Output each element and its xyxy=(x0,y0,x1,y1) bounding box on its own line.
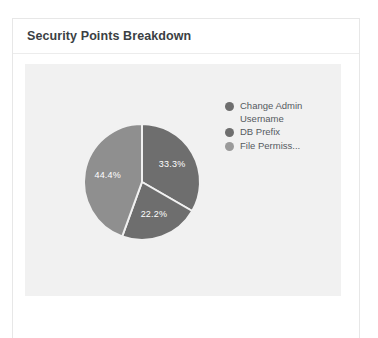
legend-color-swatch-icon xyxy=(225,102,234,111)
card-header: Security Points Breakdown xyxy=(13,19,359,54)
card-body: 33.3%22.2%44.4% Change Admin UsernameDB … xyxy=(13,54,359,296)
legend-item[interactable]: Change Admin Username xyxy=(225,100,333,125)
pie-slices xyxy=(84,124,200,240)
legend-item-label: File Permiss... xyxy=(240,140,300,153)
legend-color-swatch-icon xyxy=(225,142,234,151)
legend-item-label: DB Prefix xyxy=(240,126,280,139)
legend-item[interactable]: DB Prefix xyxy=(225,126,333,139)
legend-color-swatch-icon xyxy=(225,128,234,137)
security-points-breakdown-card: Security Points Breakdown 33.3%22.2%44.4… xyxy=(12,18,360,338)
pie-chart: 33.3%22.2%44.4% xyxy=(25,64,341,296)
pie-chart-area: 33.3%22.2%44.4% Change Admin UsernameDB … xyxy=(25,64,341,296)
pie-slice-value-label: 22.2% xyxy=(141,209,168,219)
chart-legend: Change Admin UsernameDB PrefixFile Permi… xyxy=(225,100,333,153)
legend-item[interactable]: File Permiss... xyxy=(225,140,333,153)
pie-slice-value-label: 33.3% xyxy=(159,159,186,169)
legend-item-label: Change Admin Username xyxy=(240,100,333,125)
page-title: Security Points Breakdown xyxy=(27,29,191,43)
pie-slice-value-label: 44.4% xyxy=(94,170,121,180)
